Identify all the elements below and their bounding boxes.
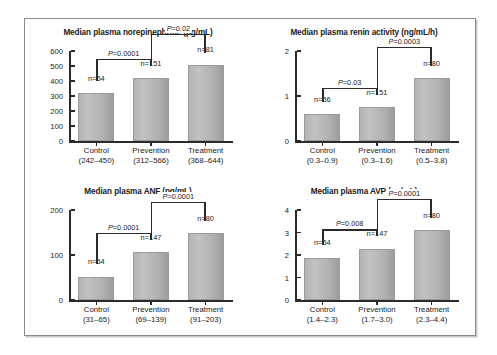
bracket-leg-left <box>151 202 152 240</box>
bar <box>414 78 450 141</box>
p-value-label: P=0.008 <box>334 219 364 228</box>
chart-title: Median plasma norepinephrine (pg/mL) <box>25 28 251 37</box>
bar <box>188 233 224 300</box>
significance-bracket: P=0.0001 <box>96 233 151 234</box>
y-axis-tick <box>297 209 301 210</box>
y-axis-tick-label: 100 <box>50 251 63 260</box>
bracket-leg-left <box>322 88 323 102</box>
plot-area: 01234n=54Control(1.4–2.3)n=147Prevention… <box>295 210 459 300</box>
bracket-leg-right <box>430 199 431 218</box>
y-axis-tick-label: 300 <box>50 92 63 101</box>
category-range: (69–139) <box>135 315 166 324</box>
bar-n-label: n=80 <box>423 59 440 68</box>
y-axis-tick-label: 1 <box>285 92 289 101</box>
category-name: Treatment <box>414 305 449 314</box>
bar <box>78 277 114 300</box>
x-axis-category-label: Treatment(368–644) <box>188 146 224 167</box>
bar <box>188 65 224 141</box>
category-range: (2.3–4.4) <box>416 315 447 324</box>
x-axis-category-label: Control(0.3–0.9) <box>307 146 338 167</box>
bar <box>304 258 340 300</box>
category-range: (1.4–2.3) <box>307 315 338 324</box>
x-axis-category-label: Treatment(0.5–3.8) <box>414 146 449 167</box>
bracket-leg-right <box>204 202 205 221</box>
significance-bracket: P=0.0001 <box>377 199 432 200</box>
x-axis-category-label: Prevention(1.7–3.0) <box>358 305 395 326</box>
y-axis-tick-label: 600 <box>50 47 63 56</box>
y-axis-tick <box>71 209 75 210</box>
chart-panel-avp: Median plasma AVP (pg/mL) 01234n=54Contr… <box>251 178 477 337</box>
category-name: Prevention <box>358 146 395 155</box>
p-value-label: P=0.02 <box>165 24 191 33</box>
bar <box>414 230 450 300</box>
plot-area: 0100200300400500600n=54Control(242–450)n… <box>69 51 233 141</box>
category-name: Control <box>84 146 109 155</box>
y-axis-tick-label: 200 <box>50 107 63 116</box>
y-axis-tick-label: 0 <box>59 296 63 305</box>
y-axis-tick-label: 0 <box>285 137 289 146</box>
y-axis-tick-label: 3 <box>285 228 289 237</box>
p-value-label: P=0.0001 <box>161 192 195 201</box>
bar <box>78 93 114 141</box>
bar-n-label: n=80 <box>423 211 440 220</box>
x-axis-category-label: Prevention(0.3–1.6) <box>358 146 395 167</box>
y-axis-tick-label: 0 <box>285 296 289 305</box>
y-axis-tick-label: 2 <box>285 47 289 56</box>
significance-bracket: P=0.0001 <box>96 59 151 60</box>
y-axis-tick <box>71 110 75 111</box>
y-axis-tick <box>71 254 75 255</box>
figure-frame: Median plasma norepinephrine (pg/mL) 010… <box>24 18 476 336</box>
p-value-label: P=0.0001 <box>387 189 421 198</box>
bar-n-label: n=81 <box>197 45 214 54</box>
y-axis-tick <box>71 50 75 51</box>
category-range: (368–644) <box>188 156 224 165</box>
bar <box>133 78 169 141</box>
y-axis-tick-label: 0 <box>59 137 63 146</box>
chart-panel-norepinephrine: Median plasma norepinephrine (pg/mL) 010… <box>25 19 251 178</box>
bracket-leg-right <box>430 47 431 66</box>
y-axis-tick <box>297 95 301 96</box>
category-range: (312–566) <box>133 156 169 165</box>
x-axis-category-label: Control(1.4–2.3) <box>307 305 338 326</box>
category-range: (0.5–3.8) <box>416 156 447 165</box>
category-range: (0.3–0.9) <box>307 156 338 165</box>
chart-title: Median plasma ANF (pg/mL) <box>25 187 251 196</box>
x-axis-category-label: Prevention(69–139) <box>132 305 169 326</box>
y-axis-tick-label: 200 <box>50 206 63 215</box>
y-axis-tick <box>297 232 301 233</box>
y-axis-tick <box>71 125 75 126</box>
category-name: Control <box>310 146 335 155</box>
bracket-leg-left <box>96 233 97 264</box>
category-range: (91–203) <box>190 315 221 324</box>
y-axis-tick <box>297 50 301 51</box>
bracket-leg-left <box>377 199 378 236</box>
bar <box>359 107 395 141</box>
chart-panel-renin: Median plasma renin activity (ng/mL/h) 0… <box>251 19 477 178</box>
x-axis-category-label: Treatment(2.3–4.4) <box>414 305 449 326</box>
y-axis-tick <box>297 277 301 278</box>
significance-bracket: P=0.0003 <box>377 47 432 48</box>
y-axis-tick <box>71 299 75 300</box>
y-axis-tick <box>71 95 75 96</box>
plot-area: 012n=56Control(0.3–0.9)n=151Prevention(0… <box>295 51 459 141</box>
y-axis-tick <box>71 65 75 66</box>
plot-area: 0100200n=54Control(31–65)n=147Prevention… <box>69 210 233 300</box>
chart-panel-anf: Median plasma ANF (pg/mL) 0100200n=54Con… <box>25 178 251 337</box>
significance-bracket: P=0.03 <box>322 88 377 89</box>
significance-bracket: P=0.02 <box>151 34 206 35</box>
y-axis-tick-label: 1 <box>285 273 289 282</box>
x-axis-category-label: Control(31–65) <box>83 305 110 326</box>
y-axis-tick <box>297 140 301 141</box>
category-name: Control <box>84 305 109 314</box>
y-axis-tick-label: 500 <box>50 62 63 71</box>
category-name: Control <box>310 305 335 314</box>
chart-title: Median plasma renin activity (ng/mL/h) <box>251 28 477 37</box>
p-value-label: P=0.0003 <box>387 37 421 46</box>
chart-title: Median plasma AVP (pg/mL) <box>251 187 477 196</box>
p-value-label: P=0.03 <box>336 78 362 87</box>
y-axis-tick <box>71 140 75 141</box>
y-axis-tick-label: 100 <box>50 122 63 131</box>
y-axis-tick <box>297 299 301 300</box>
bracket-leg-left <box>96 59 97 81</box>
significance-bracket: P=0.0001 <box>151 202 206 203</box>
